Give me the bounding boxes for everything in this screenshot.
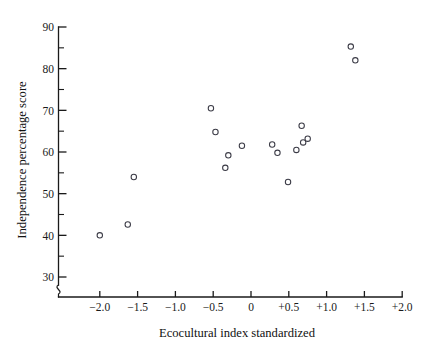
y-axis-title: Independence percentage score: [15, 81, 29, 239]
data-points: [97, 44, 358, 238]
data-point: [125, 222, 130, 227]
x-tick-label: 0: [248, 301, 254, 313]
x-tick-label: +2.0: [392, 301, 413, 313]
data-point: [275, 150, 280, 155]
plot-canvas: 30405060708090 −2.0−1.5−1.0−0.50+0.5+1.0…: [0, 0, 447, 345]
data-point: [269, 142, 274, 147]
axes: [57, 27, 402, 297]
x-axis-title: Ecocultural index standardized: [159, 326, 316, 340]
scatter-plot-figure: 30405060708090 −2.0−1.5−1.0−0.50+0.5+1.0…: [0, 0, 447, 345]
y-tick-label: 60: [43, 146, 55, 158]
data-point: [348, 44, 353, 49]
tick-marks: [59, 27, 403, 297]
y-tick-label: 90: [43, 21, 55, 33]
data-point: [208, 106, 213, 111]
data-point: [131, 174, 136, 179]
x-tick-label: −1.5: [127, 301, 148, 313]
data-point: [300, 140, 305, 145]
x-tick-label: −2.0: [89, 301, 110, 313]
y-tick-label: 70: [43, 105, 55, 117]
x-axis-tick-labels: −2.0−1.5−1.0−0.50+0.5+1.0+1.5+2.0: [89, 301, 413, 313]
axis-break-icon: [57, 285, 60, 297]
x-tick-label: +1.5: [354, 301, 375, 313]
y-tick-label: 50: [43, 188, 55, 200]
x-tick-label: +0.5: [278, 301, 299, 313]
data-point: [294, 147, 299, 152]
data-point: [239, 143, 244, 148]
x-tick-label: −1.0: [165, 301, 186, 313]
data-point: [223, 165, 228, 170]
y-tick-label: 30: [43, 271, 55, 283]
y-tick-label: 80: [43, 63, 55, 75]
data-point: [305, 136, 310, 141]
y-axis-tick-labels: 30405060708090: [43, 21, 55, 283]
data-point: [353, 58, 358, 63]
data-point: [226, 153, 231, 158]
data-point: [213, 129, 218, 134]
x-tick-label: +1.0: [316, 301, 337, 313]
data-point: [97, 233, 102, 238]
data-point: [285, 179, 290, 184]
y-tick-label: 40: [43, 230, 55, 242]
data-point: [299, 123, 304, 128]
x-tick-label: −0.5: [203, 301, 224, 313]
